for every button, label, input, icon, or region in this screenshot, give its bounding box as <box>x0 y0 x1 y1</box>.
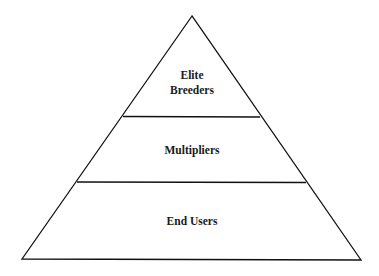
tier-label-line: End Users <box>167 215 218 227</box>
tier-end-users: End Users <box>167 215 218 227</box>
tier-label-line: Multipliers <box>165 144 220 157</box>
tier-label-line: Elite <box>181 69 204 81</box>
tier-divider-bottom <box>77 182 306 183</box>
pyramid-diagram: Elite Breeders Multipliers End Users <box>0 0 379 276</box>
tier-label-line: Breeders <box>170 84 214 96</box>
tier-multipliers: Multipliers <box>165 144 220 157</box>
tier-divider-top <box>123 117 260 118</box>
